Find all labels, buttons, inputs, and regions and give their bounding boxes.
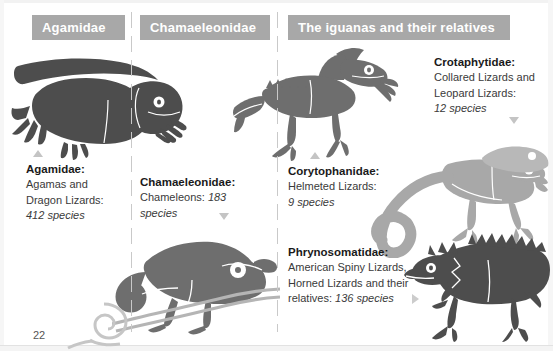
entry-phrynosomatidae-title: Phrynosomatidae: (288, 245, 416, 260)
entry-phrynosomatidae-line2: Horned Lizards and their (288, 276, 416, 292)
entry-phrynosomatidae-line1: American Spiny Lizards, (288, 260, 416, 276)
column-header-chamaeleonidae-label: Chamaeleonidae (150, 20, 256, 35)
entry-corytophanidae-title: Corytophanidae: (288, 164, 418, 179)
entry-chamaeleonidae-count: 183 (208, 191, 226, 203)
entry-crotaphytidae: Crotaphytidae: Collared Lizards and Leop… (434, 55, 548, 117)
horned-lizard-silhouette (404, 230, 550, 342)
entry-phrynosomatidae-species: 136 species (335, 292, 394, 304)
helmeted-lizard-silhouette (232, 44, 407, 162)
entry-agamidae-title: Agamidae: (26, 162, 126, 177)
entry-chamaeleonidae-title: Chamaeleonidae: (140, 175, 268, 190)
entry-corytophanidae-line1: Helmeted Lizards: (288, 179, 418, 195)
snail-silhouette (60, 300, 138, 350)
entry-agamidae-species: 412 species (26, 208, 126, 224)
column-header-agamidae: Agamidae (32, 15, 125, 40)
entry-corytophanidae: Corytophanidae: Helmeted Lizards: 9 spec… (288, 164, 418, 210)
entry-phrynosomatidae-line3: relatives: 136 species (288, 291, 416, 307)
entry-phrynosomatidae: Phrynosomatidae: American Spiny Lizards,… (288, 245, 416, 307)
column-divider-1 (131, 12, 132, 332)
triangle-up-icon (33, 150, 43, 157)
entry-crotaphytidae-title: Crotaphytidae: (434, 55, 548, 70)
column-header-iguanas-label: The iguanas and their relatives (298, 20, 495, 35)
column-header-agamidae-label: Agamidae (42, 20, 106, 35)
entry-agamidae-line1: Agamas and (26, 177, 126, 193)
entry-chamaeleonidae: Chamaeleonidae: Chameleons: 183 species (140, 175, 268, 221)
entry-corytophanidae-species: 9 species (288, 195, 418, 211)
entry-agamidae: Agamidae: Agamas and Dragon Lizards: 412… (26, 162, 126, 224)
column-header-iguanas: The iguanas and their relatives (288, 15, 510, 40)
entry-crotaphytidae-line1: Collared Lizards and (434, 70, 548, 86)
page-number: 22 (33, 329, 45, 341)
page-edge-top (0, 0, 553, 3)
page-edge-left (0, 0, 4, 351)
entry-chamaeleonidae-line1: Chameleons: 183 (140, 190, 268, 206)
triangle-up-icon (310, 152, 320, 159)
entry-crotaphytidae-species: 12 species (434, 101, 548, 117)
collared-lizard-head-fragment (476, 140, 550, 174)
book-page: Agamidae Chamaeleonidae The iguanas and … (0, 0, 553, 351)
entry-chamaeleonidae-species-word: species (140, 206, 268, 222)
entry-crotaphytidae-line2: Leopard Lizards: (434, 86, 548, 102)
entry-agamidae-line2: Dragon Lizards: (26, 193, 126, 209)
triangle-down-icon (509, 117, 519, 124)
entry-chamaeleonidae-common: Chameleons: (140, 191, 208, 203)
entry-phrynosomatidae-relatives: relatives: (288, 292, 335, 304)
column-divider-2 (277, 12, 278, 332)
column-header-chamaeleonidae: Chamaeleonidae (140, 15, 270, 40)
agamid-lizard-silhouette (8, 44, 188, 162)
